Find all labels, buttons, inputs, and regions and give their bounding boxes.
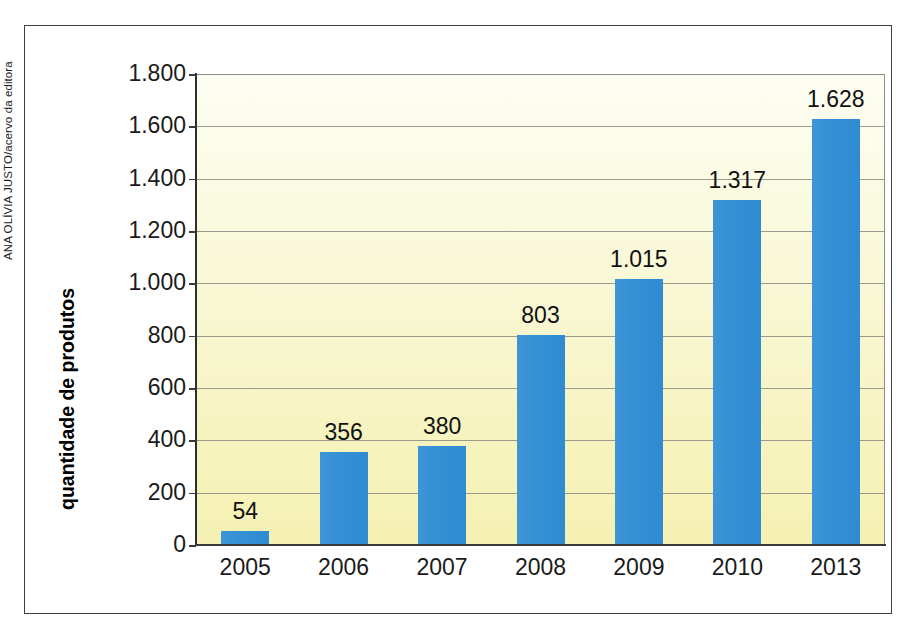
gridline	[196, 231, 885, 232]
image-credit-text: ANA OLÍVIA JUSTO/acervo da editora	[2, 242, 14, 260]
y-axis-title: quantidade de produtos	[54, 180, 80, 510]
bar	[713, 200, 761, 545]
y-axis-tick-label: 800	[148, 324, 186, 347]
y-axis-tick	[189, 283, 196, 285]
y-axis-tick	[189, 388, 196, 390]
x-axis-tick-label: 2013	[766, 556, 905, 579]
y-axis-tick-label: 1.200	[128, 219, 186, 242]
y-axis-tick	[189, 126, 196, 128]
y-axis-tick-label: 1.400	[128, 167, 186, 190]
x-axis-line	[195, 544, 886, 546]
y-axis-tick-labels: 02004006008001.0001.2001.4001.6001.800	[96, 0, 186, 627]
y-axis-tick-label: 400	[148, 428, 186, 451]
y-axis-tick	[189, 231, 196, 233]
plot-right-border	[884, 74, 885, 545]
bar-value-label: 803	[471, 304, 611, 327]
bar	[418, 446, 466, 545]
y-axis-tick	[189, 493, 196, 495]
bar	[615, 279, 663, 545]
y-axis-tick-label: 600	[148, 376, 186, 399]
bar-value-label: 1.317	[667, 169, 807, 192]
y-axis-tick	[189, 179, 196, 181]
chart-figure: ANA OLÍVIA JUSTO/acervo da editora quant…	[0, 0, 905, 627]
y-axis-tick-label: 1.600	[128, 114, 186, 137]
y-axis-tick	[189, 440, 196, 442]
bar	[221, 531, 269, 545]
bar-value-label: 54	[175, 500, 315, 523]
gridline	[196, 74, 885, 75]
bar-value-label: 1.015	[569, 248, 709, 271]
bar-value-label: 1.628	[766, 88, 905, 111]
gridline	[196, 283, 885, 284]
y-axis-tick	[189, 74, 196, 76]
bar-value-label: 380	[372, 415, 512, 438]
y-axis-tick	[189, 336, 196, 338]
gridline	[196, 126, 885, 127]
image-credit: ANA OLÍVIA JUSTO/acervo da editora	[0, 24, 18, 264]
y-axis-tick-label: 0	[173, 533, 186, 556]
bar	[517, 335, 565, 545]
y-axis-tick-label: 1.800	[128, 62, 186, 85]
bar	[320, 452, 368, 545]
bar	[812, 119, 860, 545]
y-axis-tick	[189, 545, 196, 547]
y-axis-title-text: quantidade de produtos	[56, 484, 79, 510]
y-axis-line	[195, 73, 197, 546]
y-axis-tick-label: 1.000	[128, 271, 186, 294]
